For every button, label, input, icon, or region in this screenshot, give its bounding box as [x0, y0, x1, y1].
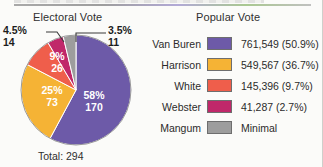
- legend-value-mangum: Minimal: [232, 122, 277, 134]
- electoral-vote-pie-chart: 58% 170 25% 73 9% 26: [19, 33, 133, 147]
- callout-mangum-count: 11: [108, 37, 132, 49]
- legend-value-van-buren: 761,549 (50.9%): [232, 38, 319, 50]
- legend-name-webster: Webster: [144, 101, 207, 113]
- legend-value-harrison: 549,567 (36.7%): [232, 59, 319, 71]
- legend-row-mangum: MangumMinimal: [144, 117, 322, 138]
- pie-slice-group: [21, 35, 131, 145]
- legend-name-white: White: [144, 80, 207, 92]
- legend-swatch-van-buren: [207, 37, 232, 50]
- callout-mangum: 3.5% 11: [108, 25, 132, 48]
- callout-mangum-percent: 3.5%: [108, 25, 132, 37]
- header-divider-rule: [14, 4, 311, 6]
- callout-webster: 4.5% 14: [3, 25, 27, 48]
- scan-artifact-top: [14, 0, 264, 3]
- pie-label-van-buren-percent: 58%: [83, 89, 105, 101]
- legend-swatch-mangum: [207, 121, 232, 134]
- pie-label-van-buren-count: 170: [85, 101, 103, 113]
- legend-swatch-white: [207, 79, 232, 92]
- legend-value-webster: 41,287 (2.7%): [232, 101, 307, 113]
- legend-name-van-buren: Van Buren: [144, 38, 207, 50]
- popular-vote-legend: Van Buren761,549 (50.9%)Harrison549,567 …: [144, 33, 322, 138]
- legend-name-mangum: Mangum: [144, 122, 207, 134]
- pie-svg: 58% 170 25% 73 9% 26: [19, 33, 133, 147]
- pie-label-harrison-percent: 25%: [41, 84, 63, 96]
- pie-label-white-percent: 9%: [49, 50, 65, 62]
- pie-label-white-count: 26: [51, 62, 63, 74]
- electoral-total-caption: Total: 294: [38, 150, 84, 162]
- callout-webster-count: 14: [3, 37, 27, 49]
- legend-name-harrison: Harrison: [144, 59, 207, 71]
- pie-label-harrison-count: 73: [46, 96, 58, 108]
- legend-row-van-buren: Van Buren761,549 (50.9%): [144, 33, 322, 54]
- electoral-vote-title: Electoral Vote: [33, 11, 102, 23]
- legend-row-harrison: Harrison549,567 (36.7%): [144, 54, 322, 75]
- legend-swatch-harrison: [207, 58, 232, 71]
- legend-row-white: White145,396 (9.7%): [144, 75, 322, 96]
- legend-swatch-webster: [207, 100, 232, 113]
- popular-vote-title: Popular Vote: [196, 11, 260, 23]
- callout-webster-percent: 4.5%: [3, 25, 27, 37]
- legend-value-white: 145,396 (9.7%): [232, 80, 313, 92]
- legend-row-webster: Webster41,287 (2.7%): [144, 96, 322, 117]
